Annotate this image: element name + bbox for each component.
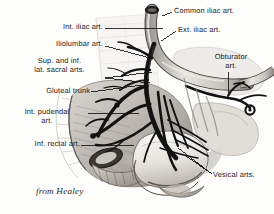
label-vesical-arts: Vesical arts. (213, 171, 274, 180)
label-int-pudendal-art: Int. pudendal art. (7, 108, 87, 125)
label-gluteal-trunk: Gluteal trunk (12, 87, 90, 96)
label-common-iliac-art: Common iliac art. (174, 7, 274, 16)
figure-credit: from Healey (36, 186, 84, 196)
label-int-iliac-art: Int. iliac art. (31, 23, 103, 32)
leader-common-iliac-art (162, 12, 172, 16)
label-obturator-art: Obturator art. (203, 53, 259, 70)
anatomical-figure: Int. iliac art. Iliolumbar art. Sup. and… (0, 0, 274, 214)
label-inf-rectal-art: Inf. rectal art. (2, 140, 80, 149)
leader-ext-iliac-art (161, 31, 176, 41)
label-sup-inf-lat-sacral-arts: Sup. and inf. lat. sacral arts. (16, 57, 103, 74)
label-ext-iliac-art: Ext. iliac art. (178, 26, 268, 35)
label-iliolumbar-art: Iliolumbar art. (23, 40, 103, 49)
